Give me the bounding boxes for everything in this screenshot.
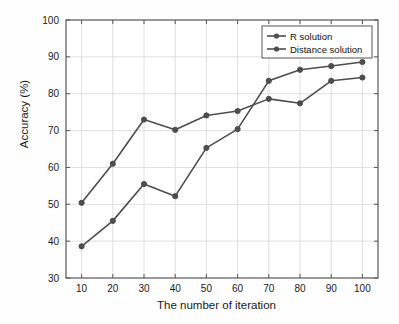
data-point-marker [204,145,209,150]
data-point-marker [141,117,146,122]
data-point-marker [266,96,271,101]
y-tick-label: 90 [48,51,60,62]
data-point-marker [329,63,334,68]
chart-figure: 10203040506070809010030405060708090100 R… [0,0,399,324]
x-axis-label-text: The number of iteration [123,299,276,311]
data-point-marker [235,108,240,113]
x-tick-label: 80 [294,283,306,294]
data-point-marker [173,127,178,132]
legend-entry-label: R solution [290,31,332,42]
x-tick-label: 90 [326,283,338,294]
data-point-marker [79,200,84,205]
legend-marker-icon [274,46,279,51]
data-point-marker [110,161,115,166]
x-tick-label: 10 [76,283,88,294]
data-point-marker [141,181,146,186]
data-point-marker [79,244,84,249]
x-tick-label: 100 [354,283,371,294]
data-point-marker [297,101,302,106]
data-point-marker [110,218,115,223]
y-tick-label: 100 [42,15,59,26]
x-tick-label: 50 [201,283,213,294]
data-point-marker [235,126,240,131]
data-point-marker [360,75,365,80]
y-axis-label: Accuracy (%) [18,59,30,169]
data-point-marker [297,67,302,72]
x-axis-label: The number of iteration [0,299,399,311]
chart-legend[interactable]: R solutionDistance solution [262,26,372,58]
y-tick-label: 70 [48,125,60,136]
legend-entry-label: Distance solution [290,44,362,55]
data-point-marker [360,59,365,64]
legend-marker-icon [274,33,279,38]
y-tick-label: 80 [48,88,60,99]
x-tick-label: 30 [138,283,150,294]
data-point-marker [204,113,209,118]
y-tick-label: 50 [48,199,60,210]
data-point-marker [329,78,334,83]
data-point-marker [173,194,178,199]
y-tick-label: 30 [48,273,60,284]
y-tick-label: 40 [48,236,60,247]
y-tick-label: 60 [48,162,60,173]
x-tick-label: 70 [263,283,275,294]
x-tick-label: 20 [107,283,119,294]
x-tick-label: 60 [232,283,244,294]
x-tick-label: 40 [170,283,182,294]
line-chart-canvas: 10203040506070809010030405060708090100 R… [0,0,399,324]
data-point-marker [266,78,271,83]
